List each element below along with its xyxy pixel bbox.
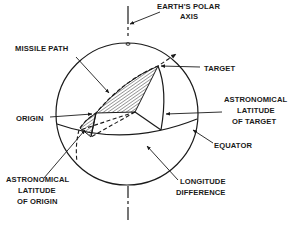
label-longitude-difference-line1: LONGITUDE: [180, 177, 226, 186]
label-missile-path: MISSILE PATH: [15, 44, 68, 53]
label-latitude-origin-line3: OF ORIGIN: [17, 197, 58, 206]
label-latitude-target-line2: LATITUDE: [237, 106, 275, 115]
target-meridian: [158, 66, 164, 130]
north-pole-marker: [126, 43, 130, 46]
missile-path-leader: [76, 57, 109, 93]
label-latitude-origin-line1: ASTRONOMICAL: [6, 175, 69, 184]
latitude-origin-leader: [44, 130, 85, 178]
origin-meridian-hidden: [76, 130, 79, 162]
center-to-target-equator: [135, 112, 161, 130]
target-leader: [161, 66, 200, 67]
label-target: TARGET: [204, 64, 236, 73]
polar-axis-leader: [130, 12, 160, 24]
label-latitude-target-line1: ASTRONOMICAL: [224, 95, 287, 104]
latitude-target-leader: [166, 112, 222, 114]
label-latitude-target-line3: OF TARGET: [232, 117, 276, 126]
label-polar-axis-line1: EARTH'S POLAR: [157, 2, 220, 11]
polar-axis: [126, 6, 130, 220]
label-polar-axis-line2: AXIS: [180, 12, 198, 21]
label-longitude-difference-line2: DIFFERENCE: [176, 188, 226, 197]
label-origin: ORIGIN: [16, 114, 44, 123]
label-equator: EQUATOR: [214, 141, 252, 150]
equator-leader: [193, 130, 213, 143]
label-latitude-origin-line2: LATITUDE: [18, 186, 56, 195]
missile-path-diagram: EARTH'S POLAR AXIS MISSILE PATH TARGET O…: [0, 0, 295, 225]
